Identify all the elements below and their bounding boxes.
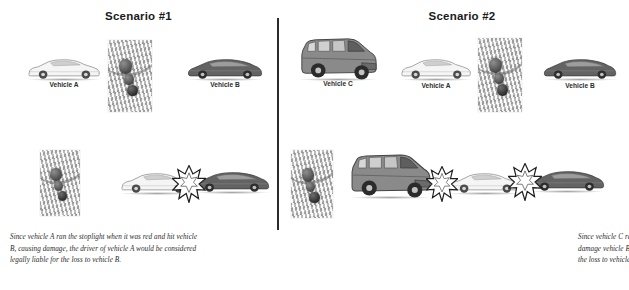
rear-impact-starburst-icon xyxy=(426,166,458,202)
sedan-white-icon xyxy=(399,58,473,80)
sedan-dark-icon xyxy=(186,58,264,80)
traffic-light-icon xyxy=(108,40,152,112)
scenario-2-top-vehicle-c: Vehicle C xyxy=(297,36,379,86)
signal-lamp-bottom xyxy=(127,85,138,97)
scenario-2-caption: Since vehicle C ran the stoplight and hi… xyxy=(578,232,629,267)
caption-line: the loss to vehicle B, the driver of veh… xyxy=(578,255,629,267)
caption-line: legally liable for the loss to vehicle B… xyxy=(10,255,268,267)
scenario-1-top-signal xyxy=(108,40,152,112)
signal-lamp-top xyxy=(302,168,314,182)
sedan-dark-icon xyxy=(542,58,618,80)
vehicle-b-label: Vehicle B xyxy=(565,82,594,89)
car-shadow xyxy=(195,191,268,194)
car-shadow xyxy=(401,78,471,81)
caption-line: Since vehicle A ran the stoplight when i… xyxy=(10,232,268,244)
scenario-1-caption: Since vehicle A ran the stoplight when i… xyxy=(10,232,268,267)
signal-lamp-top xyxy=(50,168,61,181)
signal-lamp-top xyxy=(119,59,131,73)
traffic-light-icon xyxy=(478,38,522,112)
scenario-1-panel: Scenario #1 Vehicle A xyxy=(0,0,277,290)
traffic-light-icon xyxy=(40,150,80,216)
signal-lamp-middle xyxy=(124,74,134,85)
diagram-canvas: Scenario #1 Vehicle A xyxy=(0,0,629,290)
scenario-2-panel: Scenario #2 Vehicle C xyxy=(279,0,629,290)
scenario-1-title: Scenario #1 xyxy=(0,10,277,22)
signal-lamp-middle xyxy=(494,73,504,84)
scenario-2-bottom-vehicle-c xyxy=(347,152,433,200)
impact-starburst-icon xyxy=(172,165,206,203)
caption-line: damage vehicle B, the driver of vehicle … xyxy=(578,244,629,256)
scenario-2-top-vehicle-a: Vehicle A xyxy=(399,58,473,84)
suv-icon xyxy=(297,36,379,80)
sedan-white-icon xyxy=(26,58,102,80)
vehicle-b-label: Vehicle B xyxy=(210,81,239,88)
caption-line: Since vehicle C ran the stoplight and hi… xyxy=(578,232,629,244)
car-shadow xyxy=(350,196,431,199)
scenario-2-top-signal xyxy=(478,38,522,112)
signal-lamp-bottom xyxy=(497,84,508,96)
signal-lamp-bottom xyxy=(309,192,319,203)
caption-line: B, causing damage, the driver of vehicle… xyxy=(10,244,268,256)
scenario-2-bottom-signal xyxy=(291,150,333,218)
scenario-2-title: Scenario #2 xyxy=(279,10,629,22)
signal-lamp-bottom xyxy=(58,191,68,202)
traffic-light-icon xyxy=(291,150,333,218)
vehicle-a-label: Vehicle A xyxy=(49,81,78,88)
scenario-1-bottom-signal xyxy=(40,150,80,216)
suv-icon xyxy=(347,152,433,198)
signal-lamp-middle xyxy=(54,181,63,191)
scenario-1-top-vehicle-a: Vehicle A xyxy=(26,58,102,84)
car-shadow xyxy=(544,78,615,81)
scenario-2-top-vehicle-b: Vehicle B xyxy=(542,58,618,84)
signal-lamp-top xyxy=(489,58,501,73)
scenario-1-top-vehicle-b: Vehicle B xyxy=(186,58,264,84)
signal-lamp-middle xyxy=(306,182,315,192)
vehicle-a-label: Vehicle A xyxy=(421,82,450,89)
vehicle-c-label: Vehicle C xyxy=(323,80,352,87)
front-impact-starburst-icon xyxy=(508,163,542,201)
